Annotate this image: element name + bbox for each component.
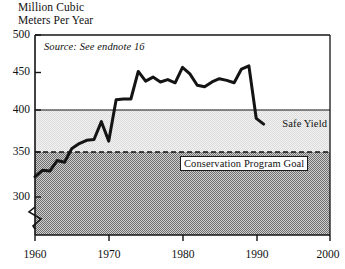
ytick-label-300: 300: [0, 190, 30, 202]
xtick-label-1980: 1980: [163, 248, 203, 260]
ytick-label-400: 400: [0, 103, 30, 115]
source-note: Source: See endnote 16: [44, 41, 145, 52]
ytick-label-350: 350: [0, 145, 30, 157]
safe-yield-label: Safe Yield: [282, 118, 327, 129]
ytick-label-500: 500: [0, 28, 30, 40]
safe-yield-band: [35, 110, 330, 152]
xtick-label-2000: 2000: [308, 248, 345, 260]
xtick-label-1990: 1990: [237, 248, 277, 260]
conservation-goal-label: Conservation Program Goal: [180, 156, 308, 171]
groundwater-withdrawal-chart: Million CubicMeters Per Year: [0, 0, 345, 269]
xtick-label-1960: 1960: [15, 248, 55, 260]
ytick-label-450: 450: [0, 65, 30, 77]
xtick-label-1970: 1970: [89, 248, 129, 260]
